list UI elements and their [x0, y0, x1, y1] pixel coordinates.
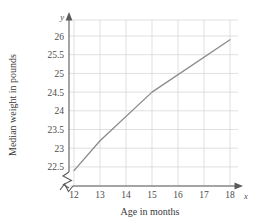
y-axis-variable-label: y: [59, 12, 64, 22]
x-tick-label: 14: [121, 190, 131, 200]
y-tick-label: 26: [55, 32, 65, 42]
x-tick-label: 15: [147, 190, 157, 200]
x-axis-title: Age in months: [121, 206, 180, 217]
x-axis-variable-label: x: [243, 191, 248, 201]
y-tick-label: 24: [55, 106, 65, 116]
y-tick-label: 25: [55, 69, 65, 79]
chart-container: 26 25.5 25 24.5 24 23.5 23 22.5 12 13 14…: [0, 0, 253, 224]
y-tick-label: 24.5: [47, 88, 64, 98]
x-tick-label: 12: [69, 190, 79, 200]
y-tick-label: 23.5: [47, 125, 64, 135]
y-tick-label: 23: [55, 144, 65, 154]
y-axis-title: Median weight in pounds: [7, 54, 18, 156]
y-tick-label: 22.5: [47, 162, 64, 172]
line-chart: 26 25.5 25 24.5 24 23.5 23 22.5 12 13 14…: [0, 0, 253, 224]
y-tick-label: 25.5: [47, 50, 64, 60]
x-tick-label: 17: [199, 190, 209, 200]
x-tick-label: 13: [95, 190, 105, 200]
x-tick-label: 16: [173, 190, 183, 200]
x-tick-label: 18: [225, 190, 235, 200]
